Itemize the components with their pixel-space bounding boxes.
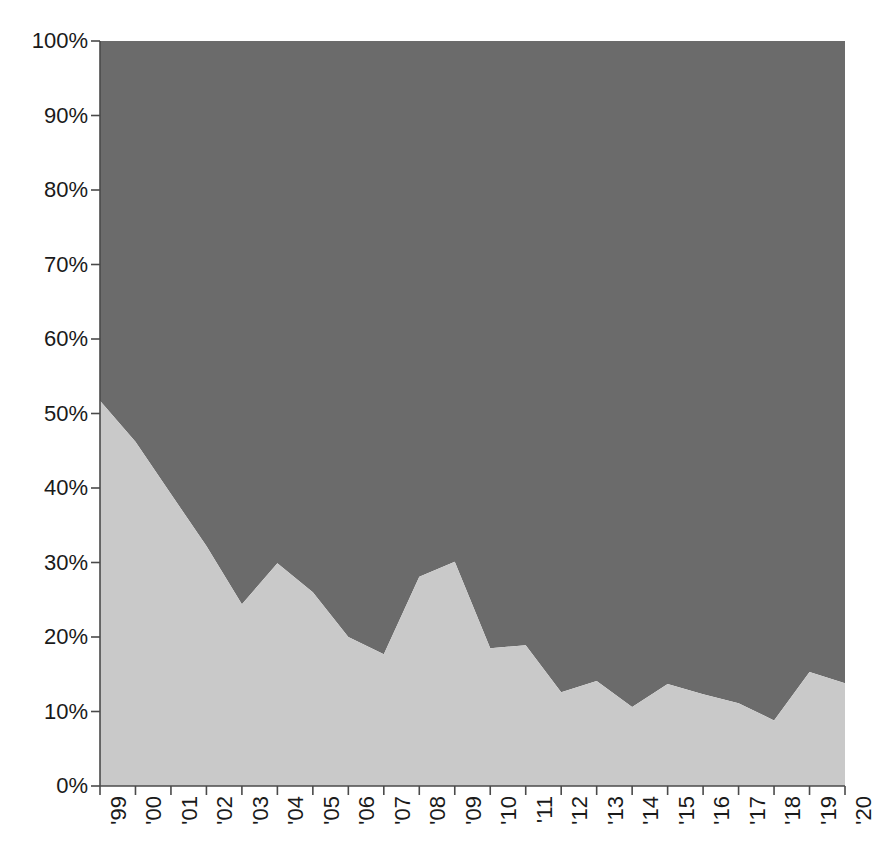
x-tick-label: '00: [143, 796, 165, 856]
x-tick-label: '10: [498, 796, 520, 856]
x-tick-label: '08: [427, 796, 449, 856]
x-tick-label: '99: [108, 796, 130, 856]
chart-container: 0%10%20%30%40%50%60%70%80%90%100% '99'00…: [0, 0, 881, 866]
x-tick-label: '17: [747, 796, 769, 856]
x-tick-label: '13: [605, 796, 627, 856]
x-tick-label: '04: [285, 796, 307, 856]
x-tick-label: '18: [782, 796, 804, 856]
x-tick-label: '01: [179, 796, 201, 856]
x-tick-label: '12: [569, 796, 591, 856]
x-tick-label: '16: [711, 796, 733, 856]
x-tick-label: '14: [640, 796, 662, 856]
x-tick-label: '11: [534, 796, 556, 856]
x-tick-label: '06: [356, 796, 378, 856]
x-tick-label: '03: [250, 796, 272, 856]
x-tick-label: '19: [818, 796, 840, 856]
x-tick-label: '02: [214, 796, 236, 856]
x-tick-label: '05: [321, 796, 343, 856]
x-tick-label: '20: [853, 796, 875, 856]
x-tick-label: '07: [392, 796, 414, 856]
x-tick-label: '09: [463, 796, 485, 856]
x-axis-label-group: '99'00'01'02'03'04'05'06'07'08'09'10'11'…: [0, 0, 881, 866]
x-tick-label: '15: [676, 796, 698, 856]
